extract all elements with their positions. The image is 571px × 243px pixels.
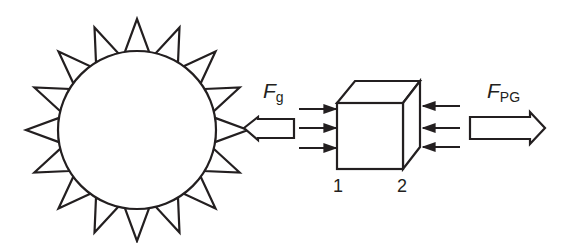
gravity-force-label: Fg [263, 79, 284, 105]
face-2-pressure-arrows [423, 106, 460, 147]
cube [337, 81, 420, 169]
sun-disc [58, 51, 216, 209]
sun-icon [26, 19, 248, 241]
force-diagram: Fg 1 2 FPG [0, 0, 571, 243]
gravity-force-arrow [244, 117, 294, 140]
face-1-pressure-arrows [299, 109, 336, 148]
radiation-pressure-force-label: FPG [487, 79, 520, 105]
face-2-label: 2 [397, 176, 407, 196]
face-1-label: 1 [333, 176, 343, 196]
radiation-pressure-force-arrow [470, 112, 545, 144]
